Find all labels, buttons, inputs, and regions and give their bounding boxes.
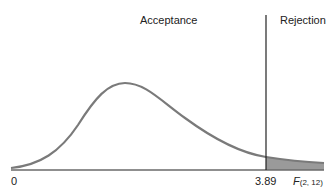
rejection-label: Rejection — [280, 14, 326, 26]
x-axis-label-main: F — [293, 175, 300, 187]
x-tick-critical: 3.89 — [255, 175, 276, 187]
x-axis-label: F(2, 12) — [293, 175, 323, 187]
f-distribution-chart — [0, 0, 335, 192]
density-curve — [11, 83, 324, 168]
x-axis-label-sub: (2, 12) — [300, 178, 323, 187]
x-tick-zero: 0 — [11, 175, 17, 187]
acceptance-label: Acceptance — [140, 14, 197, 26]
